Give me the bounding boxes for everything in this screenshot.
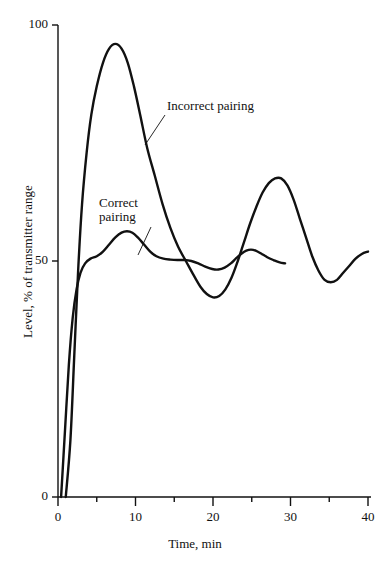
series-annotation-correct-line2: pairing — [99, 210, 138, 224]
x-tick-label-0: 0 — [33, 509, 83, 525]
series-annotation-correct-line1: Correct — [99, 196, 138, 210]
y-tick-label-0: 0 — [0, 488, 48, 504]
y-axis-tick-marks — [52, 25, 58, 497]
x-axis-tick-marks — [58, 497, 368, 506]
x-tick-label-20: 20 — [188, 509, 238, 525]
annotation-leader-lines — [138, 115, 165, 255]
y-axis-title: Level, % of transmitter range — [20, 185, 36, 338]
y-tick-label-100: 100 — [0, 16, 48, 32]
annotation-leader-0 — [145, 115, 165, 145]
x-tick-label-30: 30 — [266, 509, 316, 525]
x-tick-label-10: 10 — [111, 509, 161, 525]
series-annotation-incorrect-pairing: Incorrect pairing — [167, 99, 254, 113]
chart-figure: 050100 010203040 Level, % of transmitter… — [0, 0, 390, 562]
chart-axes — [58, 25, 371, 497]
series-line-correct-pairing — [61, 231, 285, 497]
series-annotation-correct-pairing: Correct pairing — [99, 196, 138, 224]
x-tick-label-40: 40 — [343, 509, 390, 525]
chart-plot-area — [0, 0, 390, 562]
x-axis-title: Time, min — [0, 536, 390, 552]
